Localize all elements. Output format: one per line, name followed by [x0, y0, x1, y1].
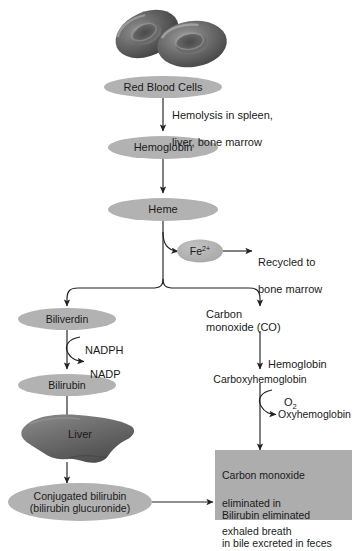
node-liver-label: Liver	[68, 428, 92, 441]
edge-label-oxygen-sub: 2	[293, 403, 297, 412]
node-iron-charge: 2+	[202, 244, 210, 252]
node-liver-label-wrap: Liver	[44, 426, 116, 442]
outcome-bilirubin-line2: in bile excreted in feces	[222, 537, 350, 551]
node-iron-label: Fe	[190, 245, 202, 257]
outcome-box-bilirubin-text: Bilirubin eliminated in bile excreted in…	[222, 495, 350, 551]
node-carbon-monoxide[interactable]: Carbon monoxide (CO)	[206, 307, 316, 335]
node-bilirubin-label: Bilirubin	[48, 379, 85, 391]
node-carbon-monoxide-line2: monoxide (CO)	[206, 321, 281, 334]
node-biliverdin[interactable]: Biliverdin	[18, 308, 116, 330]
node-conjugated-bilirubin-line2: (bilirubin glucuronide)	[30, 502, 130, 514]
edge-label-oxygen: O2	[284, 383, 297, 410]
node-iron[interactable]: Fe2+	[177, 240, 223, 262]
node-red-blood-cells-label: Red Blood Cells	[124, 81, 203, 94]
edge-label-recycled-line1: Recycled to	[258, 256, 322, 269]
edge-label-oxygen-symbol: O	[284, 396, 293, 408]
node-carbon-monoxide-line1: Carbon	[206, 308, 242, 321]
outcome-co-line1: Carbon monoxide	[222, 469, 348, 483]
node-conjugated-bilirubin[interactable]: Conjugated bilirubin (bilirubin glucuron…	[8, 483, 152, 521]
edge-label-recycled: Recycled to bone marrow	[258, 243, 322, 310]
edge-label-nadp: NADP	[90, 355, 121, 382]
node-heme[interactable]: Heme	[108, 198, 218, 221]
red-blood-cells-illustration	[108, 0, 230, 71]
edge-label-hemolysis: Hemolysis in spleen, liver, bone marrow	[172, 96, 273, 163]
edge-label-hemolysis-line2: liver, bone marrow	[172, 136, 273, 149]
node-conjugated-bilirubin-line1: Conjugated bilirubin	[34, 490, 127, 502]
node-heme-label: Heme	[148, 203, 177, 216]
edge-label-recycled-line2: bone marrow	[258, 283, 322, 296]
edge-label-hemolysis-line1: Hemolysis in spleen,	[172, 109, 273, 122]
node-red-blood-cells[interactable]: Red Blood Cells	[104, 76, 222, 98]
edge-label-nadph: NADPH	[85, 331, 124, 358]
node-carboxyhemoglobin[interactable]: Carboxyhemoglobin	[185, 372, 335, 386]
node-biliverdin-label: Biliverdin	[46, 313, 89, 325]
edge-label-hemoglobin-cofactor: Hemoglobin	[268, 345, 327, 372]
outcome-bilirubin-line1: Bilirubin eliminated	[222, 509, 350, 523]
